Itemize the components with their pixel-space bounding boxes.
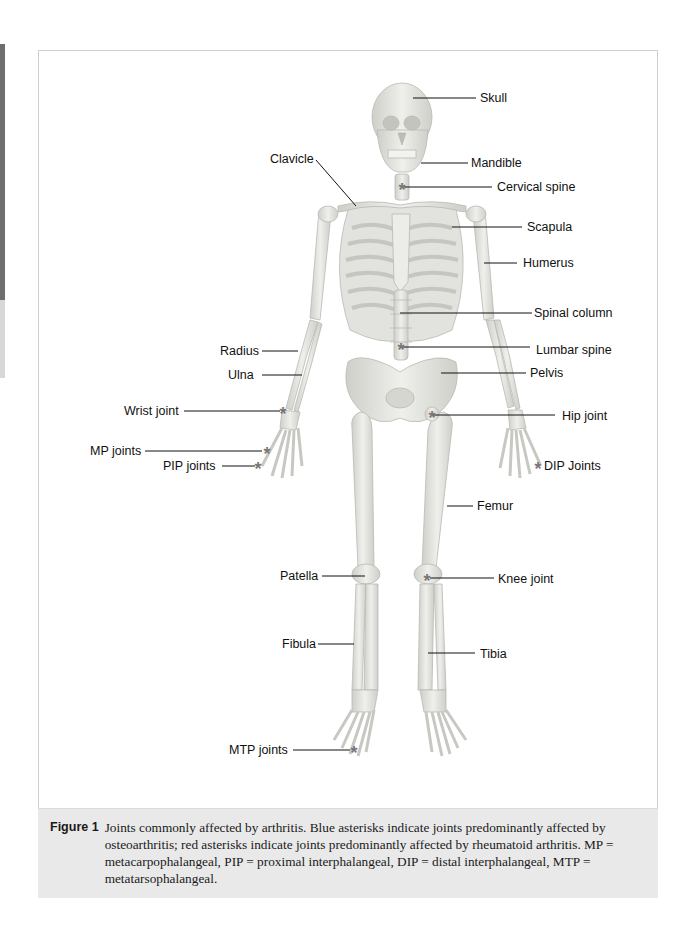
label-lumbar-spine: Lumbar spine	[536, 343, 612, 357]
femur-right-bone	[422, 412, 452, 568]
asterisk-icon-cervical-spine: *	[398, 180, 405, 200]
label-clavicle: Clavicle	[270, 152, 314, 166]
humerus-left-bone	[310, 212, 331, 320]
asterisk-icon-wrist: *	[279, 404, 286, 424]
label-mtp-joints: MTP joints	[229, 743, 288, 757]
asterisk-icon-pip: *	[254, 459, 261, 479]
label-wrist-joint: Wrist joint	[124, 404, 179, 418]
caption-text: Joints commonly affected by arthritis. B…	[105, 819, 644, 887]
label-spinal-column: Spinal column	[534, 306, 613, 320]
humerus-right-bone	[474, 212, 495, 320]
label-mp-joints: MP joints	[90, 444, 141, 458]
label-tibia: Tibia	[480, 647, 507, 661]
skull-bone	[372, 83, 432, 172]
femur-left-bone	[352, 412, 374, 568]
asterisk-icon-mp: *	[263, 444, 270, 464]
label-patella: Patella	[280, 569, 318, 583]
label-cervical-spine: Cervical spine	[497, 180, 576, 194]
label-pip-joints: PIP joints	[163, 459, 216, 473]
asterisk-icon-knee: *	[423, 571, 430, 591]
foot-right	[420, 690, 466, 756]
label-knee-joint: Knee joint	[498, 572, 554, 586]
label-dip-joints: DIP Joints	[544, 459, 601, 473]
asterisk-icon-dip: *	[534, 459, 541, 479]
label-hip-joint: Hip joint	[562, 409, 607, 423]
figure-number: Figure 1	[50, 819, 105, 887]
asterisk-icon-mtp: *	[350, 743, 357, 763]
label-scapula: Scapula	[527, 220, 572, 234]
figure-caption: Figure 1 Joints commonly affected by art…	[38, 808, 658, 898]
label-radius: Radius	[220, 344, 259, 358]
label-humerus: Humerus	[523, 256, 574, 270]
label-fibula: Fibula	[282, 637, 316, 651]
label-mandible: Mandible	[471, 156, 522, 170]
label-femur: Femur	[477, 499, 513, 513]
asterisk-icon-hip: *	[428, 408, 435, 428]
label-skull: Skull	[480, 91, 507, 105]
label-pelvis: Pelvis	[530, 366, 563, 380]
asterisk-icon-lumbar-spine: *	[397, 340, 404, 360]
label-ulna: Ulna	[228, 368, 254, 382]
